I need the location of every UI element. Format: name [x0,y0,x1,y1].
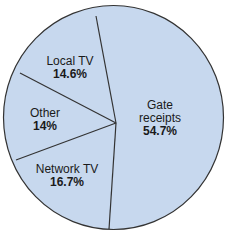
label-network-tv: Network TV 16.7% [36,163,98,189]
label-local-tv-pct: 14.6% [46,68,93,81]
label-gate-receipts: Gate receipts 54.7% [139,99,181,138]
label-gate-receipts-pct: 54.7% [139,125,181,138]
label-network-tv-pct: 16.7% [36,176,98,189]
label-other-pct: 14% [30,120,60,133]
label-other: Other 14% [30,107,60,133]
label-local-tv: Local TV 14.6% [46,55,93,81]
